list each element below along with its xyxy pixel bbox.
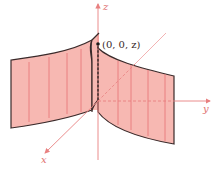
left-surface-panel bbox=[11, 40, 92, 128]
point-marker bbox=[96, 42, 100, 46]
z-axis-label: z bbox=[102, 1, 109, 12]
surface-diagram: (0, 0, z) z y x bbox=[0, 0, 214, 192]
right-surface-panel bbox=[98, 48, 174, 144]
x-axis-label: x bbox=[41, 154, 47, 165]
point-label: (0, 0, z) bbox=[102, 39, 141, 50]
y-axis-label: y bbox=[202, 103, 209, 114]
